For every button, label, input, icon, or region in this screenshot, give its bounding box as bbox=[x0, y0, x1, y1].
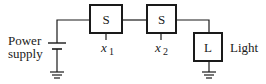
wire-supply-to-s1 bbox=[57, 20, 90, 43]
light-caption: Light bbox=[230, 40, 259, 55]
x1-subscript: 1 bbox=[109, 46, 114, 57]
switch-s2: S bbox=[147, 5, 176, 33]
ground-icon bbox=[202, 72, 216, 78]
switch-s1-label: S bbox=[102, 12, 109, 27]
x2-variable: x bbox=[154, 40, 161, 55]
wire-s2-to-light bbox=[176, 20, 209, 33]
ground-icon bbox=[50, 72, 64, 78]
power-supply-label-line2: supply bbox=[8, 46, 43, 61]
battery-icon bbox=[48, 43, 66, 49]
wires bbox=[57, 20, 209, 72]
circuit-diagram: S x 1 S x 2 L Light Power supply bbox=[0, 0, 266, 84]
light-label: L bbox=[204, 40, 212, 55]
x1-variable: x bbox=[100, 40, 107, 55]
switch-s1: S bbox=[90, 5, 122, 33]
x2-subscript: 2 bbox=[163, 46, 168, 57]
light-box: L bbox=[194, 33, 222, 61]
switch-s2-label: S bbox=[158, 12, 165, 27]
